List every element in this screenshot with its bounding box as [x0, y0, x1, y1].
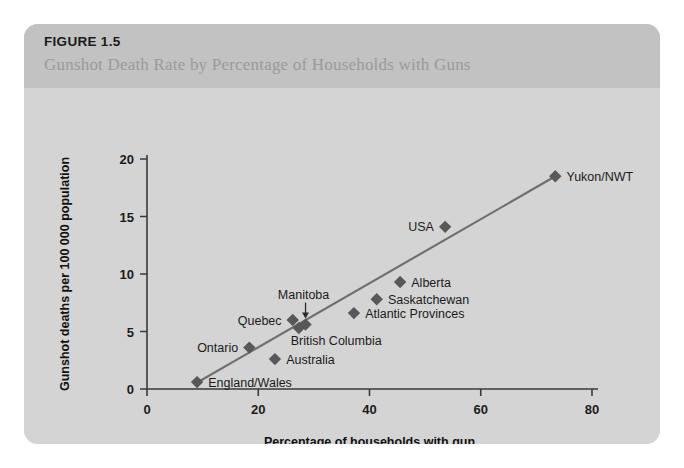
data-point-label: USA: [408, 220, 434, 234]
y-tick-label: 15: [120, 210, 134, 225]
plot-area: 02040608005101520Percentage of household…: [24, 88, 660, 444]
data-point-label: Ontario: [197, 341, 238, 355]
y-tick-label: 5: [127, 325, 134, 340]
data-point-label: Alberta: [411, 276, 451, 290]
data-point-marker: [269, 353, 281, 365]
data-point-marker: [549, 170, 561, 182]
y-tick-label: 10: [120, 267, 134, 282]
y-axis-title: Gunshot deaths per 100 000 population: [58, 157, 72, 391]
y-tick-label: 0: [127, 382, 134, 397]
data-point-label: England/Wales: [208, 376, 292, 390]
figure-number: FIGURE 1.5: [44, 34, 121, 49]
x-tick-label: 80: [585, 402, 599, 417]
scatter-chart: 02040608005101520Percentage of household…: [24, 88, 660, 444]
x-axis-title: Percentage of households with gun: [264, 435, 475, 444]
data-point-label: Manitoba: [278, 288, 329, 302]
figure-panel: FIGURE 1.5 Gunshot Death Rate by Percent…: [24, 24, 660, 444]
data-point-label: British Columbia: [291, 334, 382, 348]
data-point-label: Yukon/NWT: [566, 170, 633, 184]
data-point-marker: [348, 307, 360, 319]
data-point-marker: [394, 276, 406, 288]
x-tick-label: 20: [251, 402, 265, 417]
data-point-marker: [439, 221, 451, 233]
x-tick-label: 0: [143, 402, 150, 417]
data-point-label: Atlantic Provinces: [365, 307, 464, 321]
data-point-label: Saskatchewan: [388, 293, 469, 307]
data-point-marker: [243, 341, 255, 353]
y-tick-label: 20: [120, 152, 134, 167]
figure-title: Gunshot Death Rate by Percentage of Hous…: [44, 55, 471, 75]
data-point-label: Australia: [286, 353, 335, 367]
x-tick-label: 60: [474, 402, 488, 417]
x-tick-label: 40: [362, 402, 376, 417]
data-point-marker: [371, 293, 383, 305]
data-point-label: Quebec: [238, 314, 282, 328]
data-point-marker: [191, 376, 203, 388]
